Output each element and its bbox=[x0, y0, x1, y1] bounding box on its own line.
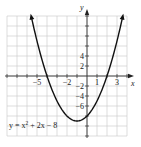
y-tick-label: 4 bbox=[80, 52, 84, 61]
parabola-chart: −5−21342−2−4−6 y x y = x2 + 2x − 8 bbox=[0, 0, 141, 147]
x-tick-label: −5 bbox=[33, 78, 42, 87]
tick-labels: −5−21342−2−4−6 bbox=[33, 52, 119, 111]
y-tick-label: −6 bbox=[75, 102, 84, 111]
x-tick-label: 3 bbox=[115, 78, 119, 87]
y-tick-label: −2 bbox=[75, 82, 84, 91]
x-axis-label: x bbox=[130, 79, 135, 88]
y-axis-label: y bbox=[79, 3, 84, 12]
x-tick-label: −2 bbox=[63, 78, 72, 87]
x-tick-label: 1 bbox=[95, 78, 99, 87]
y-tick-label: 2 bbox=[80, 62, 84, 71]
y-tick-label: −4 bbox=[75, 92, 84, 101]
equation-label: y = x2 + 2x − 8 bbox=[9, 120, 57, 130]
